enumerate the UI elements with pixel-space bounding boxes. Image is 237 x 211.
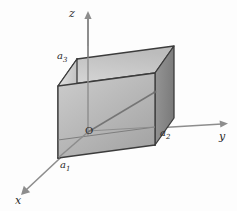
vertex-marker-a3 bbox=[76, 58, 78, 60]
vertex-label-a1-subscript: 1 bbox=[66, 165, 70, 173]
axis-label-z: z bbox=[69, 8, 75, 19]
vertex-marker-a2 bbox=[154, 144, 156, 146]
vertex-label-a2: a2 bbox=[160, 128, 170, 141]
diagonal-endpoint-marker bbox=[154, 91, 157, 94]
vertex-label-a2-subscript: 2 bbox=[166, 133, 170, 141]
vertex-label-a3: a3 bbox=[57, 51, 67, 64]
vertex-label-a1: a1 bbox=[60, 160, 70, 173]
axis-label-y: y bbox=[219, 131, 225, 142]
vertex-label-a3-subscript: 3 bbox=[63, 56, 67, 64]
geometry-figure: z y x a3 a2 a1 O bbox=[0, 0, 237, 211]
origin-label: O bbox=[85, 126, 93, 136]
vertex-marker-a1 bbox=[57, 157, 59, 159]
box-diagram-canvas bbox=[0, 0, 237, 211]
arrow-up-icon bbox=[84, 11, 91, 19]
arrow-right-icon bbox=[220, 120, 228, 127]
axis-label-x: x bbox=[15, 195, 21, 206]
